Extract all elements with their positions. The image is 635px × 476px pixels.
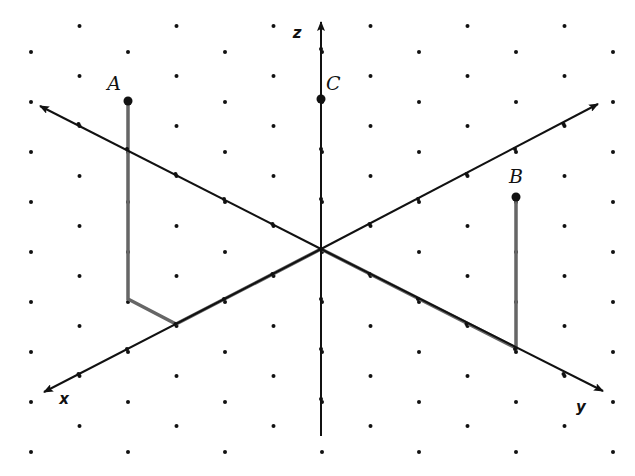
grid-dot bbox=[466, 74, 470, 78]
grid-dot bbox=[369, 74, 373, 78]
axis-tick bbox=[513, 347, 517, 351]
grid-dot bbox=[175, 74, 179, 78]
grid-dot bbox=[417, 250, 421, 254]
grid-dot bbox=[369, 424, 373, 428]
grid-dot bbox=[223, 150, 227, 154]
axis-label-z: z bbox=[292, 24, 302, 42]
axis-tick bbox=[125, 147, 129, 151]
point-C bbox=[317, 95, 326, 104]
axis-y-neg-x bbox=[321, 104, 598, 249]
grid-dot bbox=[78, 174, 82, 178]
point-label-A: A bbox=[105, 72, 121, 94]
grid-dot bbox=[272, 374, 276, 378]
axis-tick bbox=[513, 147, 517, 151]
grid-dot bbox=[417, 400, 421, 404]
grid-dot bbox=[563, 24, 567, 28]
grid-dot bbox=[369, 24, 373, 28]
axis-tick bbox=[562, 372, 566, 376]
grid-dot bbox=[175, 274, 179, 278]
axis-tick bbox=[222, 297, 226, 301]
grid-dot bbox=[78, 424, 82, 428]
axis-x bbox=[44, 249, 321, 392]
grid-dot bbox=[466, 24, 470, 28]
grid-dot bbox=[29, 50, 33, 54]
axis-y bbox=[321, 249, 603, 391]
grid-dot bbox=[29, 150, 33, 154]
grid-dot bbox=[417, 350, 421, 354]
grid-dot bbox=[272, 424, 276, 428]
grid-dot bbox=[563, 274, 567, 278]
grid-dot bbox=[78, 224, 82, 228]
point-A bbox=[124, 97, 133, 106]
axis-tick bbox=[319, 397, 323, 401]
axis-tick bbox=[174, 172, 178, 176]
grid-dot bbox=[514, 50, 518, 54]
point-B bbox=[512, 193, 521, 202]
point-label-B: B bbox=[508, 165, 523, 187]
path-to-A bbox=[128, 101, 321, 324]
grid-dot bbox=[563, 324, 567, 328]
axis-tick bbox=[319, 147, 323, 151]
grid-dot bbox=[466, 124, 470, 128]
axis-tick bbox=[416, 197, 420, 201]
axis-label-x: x bbox=[58, 390, 70, 408]
grid-dot bbox=[611, 150, 615, 154]
grid-dot bbox=[126, 400, 130, 404]
grid-dot bbox=[466, 374, 470, 378]
grid-dot bbox=[272, 124, 276, 128]
axis-tick bbox=[319, 197, 323, 201]
axis-tick bbox=[319, 47, 323, 51]
point-label-C: C bbox=[326, 72, 341, 94]
grid-dot bbox=[272, 24, 276, 28]
grid-dot bbox=[417, 50, 421, 54]
grid-dot bbox=[223, 50, 227, 54]
grid-dot bbox=[466, 274, 470, 278]
grid-dot bbox=[611, 50, 615, 54]
grid-dot bbox=[223, 400, 227, 404]
axis-tick bbox=[222, 197, 226, 201]
grid-dot bbox=[369, 324, 373, 328]
grid-dot bbox=[78, 324, 82, 328]
axis-tick bbox=[77, 122, 81, 126]
grid-dot bbox=[29, 300, 33, 304]
axis-tick bbox=[174, 322, 178, 326]
grid-dot bbox=[126, 50, 130, 54]
grid-dot bbox=[126, 450, 130, 454]
grid-dot bbox=[272, 324, 276, 328]
grid-dot bbox=[611, 200, 615, 204]
grid-dot bbox=[369, 174, 373, 178]
grid-dot bbox=[611, 450, 615, 454]
grid-dot bbox=[78, 274, 82, 278]
grid-dot bbox=[611, 100, 615, 104]
grid-dot bbox=[611, 350, 615, 354]
grid-dot bbox=[29, 450, 33, 454]
axis-tick bbox=[368, 272, 372, 276]
grid-dot bbox=[369, 374, 373, 378]
axis-tick bbox=[271, 222, 275, 226]
grid-dot bbox=[417, 450, 421, 454]
grid-dot bbox=[563, 174, 567, 178]
grid-dot bbox=[272, 174, 276, 178]
axis-tick bbox=[368, 222, 372, 226]
grid-dot bbox=[466, 424, 470, 428]
grid-dot bbox=[223, 450, 227, 454]
axis-tick bbox=[465, 322, 469, 326]
grid-dot bbox=[78, 24, 82, 28]
axis-tick bbox=[562, 122, 566, 126]
grid-dot bbox=[29, 250, 33, 254]
axis-label-y: y bbox=[576, 398, 587, 416]
grid-dot bbox=[175, 24, 179, 28]
grid-dot bbox=[78, 74, 82, 78]
grid-dot bbox=[514, 400, 518, 404]
coordinate-diagram: xyzABC bbox=[0, 0, 635, 476]
grid-dot bbox=[611, 400, 615, 404]
axes bbox=[40, 22, 603, 436]
axis-tick bbox=[271, 272, 275, 276]
grid-dot bbox=[611, 300, 615, 304]
axis-tick bbox=[319, 297, 323, 301]
grid-dot bbox=[29, 100, 33, 104]
grid-dot bbox=[417, 150, 421, 154]
grid-dot bbox=[272, 74, 276, 78]
axis-tick bbox=[416, 297, 420, 301]
grid-dot bbox=[175, 374, 179, 378]
